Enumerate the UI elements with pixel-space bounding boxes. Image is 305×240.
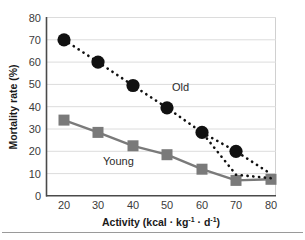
y-tick-20: 20 xyxy=(29,145,41,157)
old-marker xyxy=(57,33,70,46)
old-marker xyxy=(229,145,242,158)
x-axis-title-mid: · d xyxy=(195,216,211,228)
x-tick-40: 40 xyxy=(127,199,139,211)
old-marker xyxy=(160,101,173,114)
x-tick-20: 20 xyxy=(58,199,70,211)
series-annotation-young: Young xyxy=(103,155,134,167)
x-tick-60: 60 xyxy=(196,199,208,211)
x-axis-title-end: ) xyxy=(217,216,221,228)
young-marker xyxy=(128,140,139,151)
y-tick-60: 60 xyxy=(29,56,41,68)
y-axis-title: Mortality rate (%) xyxy=(7,64,19,149)
x-tick-30: 30 xyxy=(92,199,104,211)
y-tick-70: 70 xyxy=(29,34,41,46)
young-marker xyxy=(162,149,173,160)
x-tick-70: 70 xyxy=(230,199,242,211)
old-marker xyxy=(195,126,208,139)
y-tick-50: 50 xyxy=(29,78,41,90)
y-tick-80: 80 xyxy=(29,12,41,24)
y-tick-0: 0 xyxy=(35,190,41,202)
x-tick-50: 50 xyxy=(161,199,173,211)
series-annotation-old: Old xyxy=(172,81,189,93)
x-axis-title-main: Activity (kcal · kg xyxy=(102,216,188,228)
x-tick-80: 80 xyxy=(265,199,277,211)
young-marker xyxy=(231,175,242,186)
chart-figure: 80 70 60 50 40 30 20 10 0 20 30 40 50 60… xyxy=(0,0,305,240)
young-marker xyxy=(59,115,70,126)
old-marker xyxy=(91,56,104,69)
y-tick-30: 30 xyxy=(29,123,41,135)
y-axis-tick-labels: 80 70 60 50 40 30 20 10 0 xyxy=(29,12,41,202)
young-marker xyxy=(93,127,104,138)
y-tick-40: 40 xyxy=(29,101,41,113)
x-axis-title: Activity (kcal · kg-1 · d-1) xyxy=(102,216,220,228)
young-marker xyxy=(197,164,208,175)
old-marker xyxy=(126,79,139,92)
mortality-activity-chart: 80 70 60 50 40 30 20 10 0 20 30 40 50 60… xyxy=(0,0,305,240)
y-tick-10: 10 xyxy=(29,168,41,180)
